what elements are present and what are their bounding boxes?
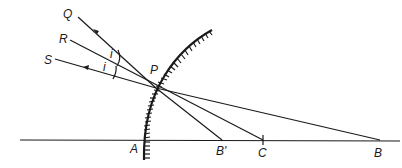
label-r: R — [59, 32, 68, 46]
arrow-icon — [83, 65, 89, 70]
principal-axis — [20, 140, 400, 141]
label-p: P — [150, 63, 158, 77]
label-angle-i-1: i — [110, 47, 113, 61]
label-q: Q — [63, 7, 72, 21]
label-s: S — [44, 53, 52, 67]
label-b: B — [374, 146, 382, 160]
label-c: C — [258, 146, 267, 160]
mirror-hatching — [144, 31, 212, 158]
label-a: A — [129, 142, 138, 156]
label-b-prime: B' — [216, 144, 227, 158]
ray-diagram: Q R S i i P A B' C B — [0, 0, 402, 168]
label-angle-i-2: i — [103, 60, 106, 74]
